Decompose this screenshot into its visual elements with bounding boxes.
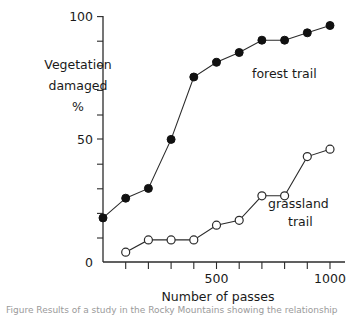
y-tick-label-50: 50 — [77, 132, 93, 147]
chart-canvas: 100 50 0 500 1000 Vegetation damaged % N… — [0, 0, 358, 315]
grassland-trail-point — [167, 236, 175, 244]
grassland-trail-point — [235, 216, 243, 224]
forest-trail-point — [213, 58, 221, 66]
chart-figure: 100 50 0 500 1000 Vegetation damaged % N… — [0, 0, 358, 315]
forest-trail-point — [167, 135, 175, 143]
forest-trail-point — [190, 73, 198, 81]
y-axis-title: Vegetation damaged % — [44, 57, 111, 114]
grassland-trail-point — [213, 221, 221, 229]
grassland-trail-point — [303, 153, 311, 161]
grassland-trail-point — [258, 192, 266, 200]
grassland-trail-point — [326, 145, 334, 153]
y-tick-marks — [97, 17, 103, 238]
x-tick-label-500: 500 — [205, 271, 229, 286]
y-axis-title-line-1: Vegetation — [44, 57, 111, 72]
forest-trail-line — [103, 26, 330, 218]
grassland-trail-point — [144, 236, 152, 244]
forest-trail-point — [144, 184, 152, 192]
forest-trail-point — [258, 36, 266, 44]
y-axis-title-line-2: damaged — [49, 78, 108, 93]
y-axis-title-line-3: % — [72, 99, 84, 114]
forest-trail-point — [281, 36, 289, 44]
grassland-trail-point — [190, 236, 198, 244]
series-annotation-forest-trail: forest trail — [252, 66, 317, 81]
y-tick-label-0: 0 — [85, 255, 93, 270]
grassland-trail-point — [122, 248, 130, 256]
x-tick-marks — [126, 262, 330, 269]
forest-trail-point — [122, 194, 130, 202]
forest-trail-point — [99, 214, 107, 222]
figure-caption-partial: Figure Results of a study in the Rocky M… — [6, 305, 338, 315]
forest-trail-point — [235, 49, 243, 57]
series-annotation-grassland-trail-line2: trail — [288, 214, 313, 229]
x-tick-label-1000: 1000 — [314, 271, 346, 286]
x-axis-title: Number of passes — [161, 289, 274, 304]
y-tick-label-100: 100 — [69, 9, 93, 24]
forest-trail-point — [326, 22, 334, 30]
forest-trail-point — [303, 29, 311, 37]
series-annotation-grassland: grassland — [268, 196, 329, 211]
series-forest-trail — [99, 22, 334, 222]
